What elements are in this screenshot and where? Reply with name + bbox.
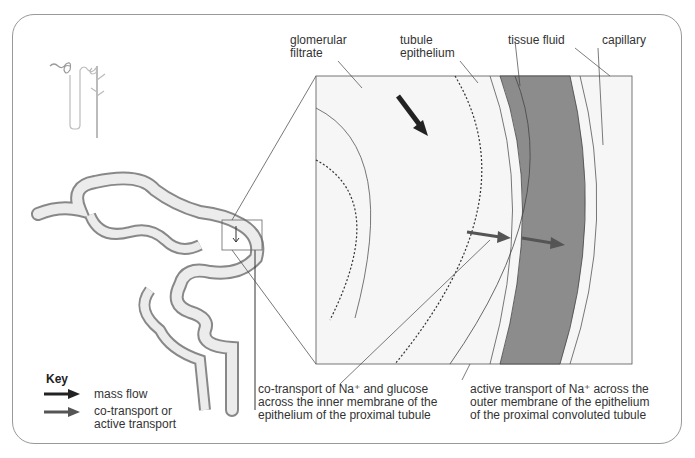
caption-active-transport: active transport of Na⁺ across theouter …: [470, 383, 649, 422]
label-glomerular-filtrate: glomerularfiltrate: [290, 34, 347, 60]
tubule-drawing: [38, 178, 257, 410]
key-cotransport: co-transport oractive transport: [94, 405, 176, 431]
nephron-thumbnail: [50, 63, 105, 138]
zoomed-panel: [316, 76, 632, 364]
key-title: Key: [46, 372, 68, 386]
label-capillary: capillary: [602, 34, 646, 47]
label-tubule-epithelium: tubuleepithelium: [400, 34, 455, 60]
key-mass-flow: mass flow: [94, 388, 147, 401]
caption-cotransport: co-transport of Na⁺ and glucoseacross th…: [258, 383, 437, 422]
label-tissue-fluid: tissue fluid: [508, 34, 565, 47]
